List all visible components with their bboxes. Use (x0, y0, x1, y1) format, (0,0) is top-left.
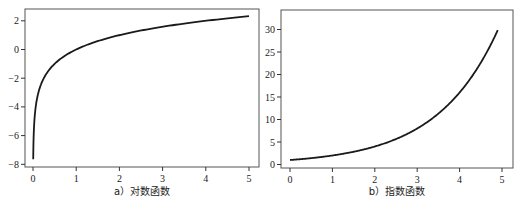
y-tick-label: 25 (265, 47, 275, 58)
y-tick-label: 0 (270, 159, 275, 170)
chart-caption: a）对数函数 (114, 185, 170, 197)
series-line (33, 16, 249, 159)
x-tick-label: 2 (372, 174, 377, 185)
series-line (290, 30, 498, 160)
y-tick-label: 30 (265, 24, 275, 35)
y-tick-label: −8 (8, 159, 19, 170)
x-tick-label: 0 (31, 173, 36, 184)
y-tick-label: −4 (8, 101, 19, 112)
y-tick-label: −2 (8, 73, 19, 84)
x-tick-label: 0 (288, 174, 293, 185)
chart-caption: b）指数函数 (369, 185, 425, 197)
plot-frame (281, 10, 513, 168)
x-tick-label: 3 (160, 173, 165, 184)
chart-canvas: 01234520−2−4−6−8a）对数函数 01234530252015105… (0, 0, 519, 210)
plot-frame (25, 9, 259, 167)
x-tick-label: 1 (330, 174, 335, 185)
y-tick-label: 2 (14, 15, 19, 26)
x-tick-label: 5 (500, 174, 505, 185)
y-tick-label: 0 (14, 44, 19, 55)
y-tick-label: 5 (270, 137, 275, 148)
y-tick-label: 10 (265, 114, 275, 125)
y-tick-label: −6 (8, 130, 19, 141)
x-tick-label: 3 (415, 174, 420, 185)
y-tick-label: 15 (265, 92, 275, 103)
x-tick-label: 2 (117, 173, 122, 184)
exponential-function-chart: 012345302520151050b）指数函数 (265, 10, 513, 197)
x-tick-label: 5 (247, 173, 252, 184)
log-function-chart: 01234520−2−4−6−8a）对数函数 (8, 9, 259, 197)
x-tick-label: 4 (203, 173, 208, 184)
x-tick-label: 1 (74, 173, 79, 184)
y-tick-label: 20 (265, 69, 275, 80)
x-tick-label: 4 (457, 174, 462, 185)
